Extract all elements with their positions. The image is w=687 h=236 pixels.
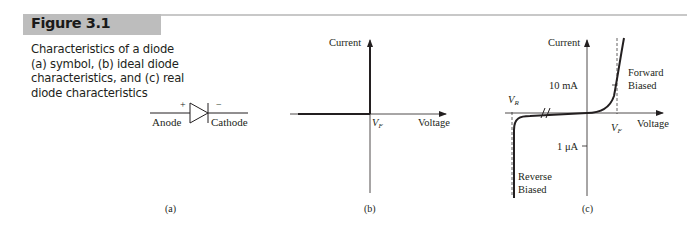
x-axis-label: Voltage [637, 118, 669, 129]
vf-label: VF [611, 122, 622, 135]
reverse-biased-label: ReverseBiased [518, 171, 552, 195]
panel-b-ideal-chart: Current Voltage VF (b) [290, 37, 450, 215]
minus-sign: − [216, 99, 222, 110]
panel-c-label: (c) [582, 203, 593, 215]
y-axis-label: Current [329, 37, 361, 48]
vf-label: VF [372, 117, 383, 130]
diode-figure: + − Anode Cathode (a) Current Voltage VF… [0, 0, 687, 236]
panel-c-real-chart: Current Voltage 10 mA 1 μA VR VF Forward… [505, 37, 669, 215]
panel-a-diode-symbol: + − Anode Cathode (a) [150, 99, 248, 215]
tick-label-1ua: 1 μA [557, 141, 579, 152]
anode-label: Anode [152, 116, 181, 128]
y-axis-label: Current [548, 37, 580, 48]
cathode-label: Cathode [211, 116, 248, 128]
diode-triangle-icon [190, 103, 208, 123]
vr-label: VR [508, 94, 519, 107]
x-axis-label: Voltage [418, 117, 450, 128]
tick-label-10ma: 10 mA [549, 80, 578, 91]
plus-sign: + [180, 99, 186, 110]
panel-a-label: (a) [165, 203, 176, 215]
forward-biased-label: ForwardBiased [628, 67, 664, 91]
panel-b-label: (b) [364, 203, 376, 215]
